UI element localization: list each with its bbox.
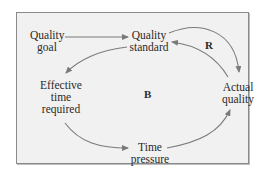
edge-standard-to-actual — [169, 28, 239, 72]
node-time-pressure-line1: Time — [129, 141, 171, 153]
node-quality-goal-line2: goal — [30, 41, 64, 53]
node-quality-standard: Quality standard — [127, 29, 171, 53]
edge-time-pressure-to-actual — [167, 110, 230, 148]
node-effective-time-line2: time — [39, 91, 83, 103]
loop-label-reinforcing: R — [205, 39, 213, 51]
node-time-pressure: Time pressure — [129, 141, 171, 165]
node-quality-goal-line1: Quality — [30, 29, 64, 41]
node-actual-quality-line2: quality — [218, 93, 258, 105]
loop-label-balancing: B — [144, 88, 151, 100]
node-time-pressure-line2: pressure — [129, 153, 171, 165]
node-effective-time-required: Effective time required — [39, 79, 83, 115]
node-effective-time-line1: Effective — [39, 79, 83, 91]
node-quality-standard-line2: standard — [127, 41, 171, 53]
edge-standard-to-effective-time — [66, 47, 127, 73]
node-quality-standard-line1: Quality — [127, 29, 171, 41]
node-actual-quality: Actual quality — [218, 81, 258, 105]
node-effective-time-line3: required — [39, 103, 83, 115]
edge-effective-time-to-time-pressure — [65, 123, 128, 148]
edge-actual-to-standard — [172, 42, 228, 77]
node-quality-goal: Quality goal — [30, 29, 64, 53]
node-actual-quality-line1: Actual — [218, 81, 258, 93]
